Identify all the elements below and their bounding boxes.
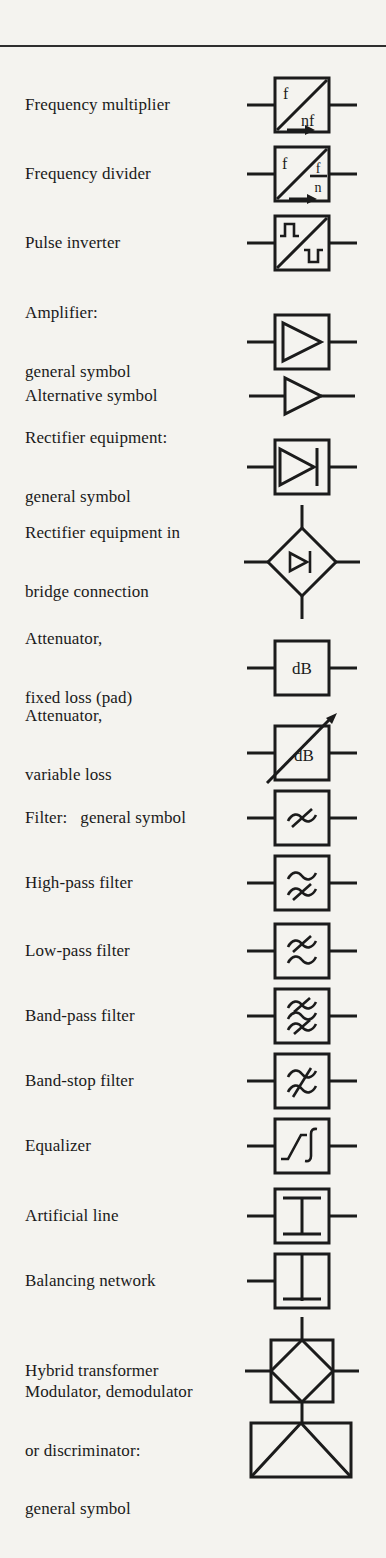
rectifier-general-symbol bbox=[237, 435, 367, 499]
symbol-text-f: f bbox=[283, 85, 289, 102]
label-line: or discriminator: bbox=[25, 1440, 193, 1460]
fraction-numerator: f bbox=[316, 161, 321, 176]
attenuator-fixed-symbol: dB bbox=[237, 636, 367, 700]
label-line: Filter: general symbol bbox=[25, 808, 186, 828]
label-line: Attenuator, bbox=[25, 629, 132, 649]
frequency-multiplier-symbol: f nf bbox=[237, 73, 367, 137]
label-line: Low-pass filter bbox=[25, 941, 130, 961]
label-line: Amplifier: bbox=[25, 303, 131, 323]
pulse-inverter-symbol bbox=[237, 211, 367, 275]
row-modulator-demodulator: Modulator, demodulator or discriminator:… bbox=[0, 1419, 386, 1481]
artificial-line-symbol bbox=[237, 1184, 367, 1248]
band-pass-filter-symbol bbox=[237, 984, 367, 1048]
filter-general-symbol bbox=[237, 786, 367, 850]
label-line: Rectifier equipment: bbox=[25, 428, 167, 448]
fraction-denominator: n bbox=[315, 180, 322, 195]
label-line: Pulse inverter bbox=[25, 233, 120, 253]
rectifier-bridge-symbol bbox=[237, 502, 367, 622]
symbol-text-db: dB bbox=[292, 659, 312, 678]
low-pass-filter-symbol bbox=[237, 919, 367, 983]
label-line: Equalizer bbox=[25, 1136, 91, 1156]
label-line: Artificial line bbox=[25, 1206, 119, 1226]
label-line: Modulator, demodulator bbox=[25, 1382, 193, 1402]
hybrid-transformer-symbol bbox=[237, 1311, 367, 1431]
symbol-text-nf: nf bbox=[301, 112, 315, 129]
balancing-network-symbol bbox=[237, 1249, 367, 1313]
label-line: Balancing network bbox=[25, 1271, 156, 1291]
attenuator-variable-symbol: dB bbox=[237, 705, 367, 785]
high-pass-filter-symbol bbox=[237, 851, 367, 915]
amplifier-alternative-symbol bbox=[237, 371, 367, 421]
frequency-divider-symbol: f f n bbox=[237, 142, 367, 206]
row-balancing-network: Balancing network bbox=[0, 1249, 386, 1313]
label-line: Band-pass filter bbox=[25, 1006, 135, 1026]
header-rule bbox=[0, 45, 386, 47]
label-line: Frequency multiplier bbox=[25, 95, 170, 115]
amplifier-general-symbol bbox=[237, 310, 367, 374]
label-line: High-pass filter bbox=[25, 873, 133, 893]
modulator-demodulator-symbol bbox=[237, 1419, 367, 1481]
symbol-text-db: dB bbox=[294, 746, 314, 765]
label-line: general symbol bbox=[25, 1499, 193, 1519]
label-line: Attenuator, bbox=[25, 706, 112, 726]
equalizer-symbol bbox=[237, 1114, 367, 1178]
scanned-page: Frequency multiplier f nf Frequency divi… bbox=[0, 0, 386, 1558]
label-line: Rectifier equipment in bbox=[25, 523, 180, 543]
symbol-text-f: f bbox=[282, 155, 288, 172]
band-stop-filter-symbol bbox=[237, 1049, 367, 1113]
label-line: Band-stop filter bbox=[25, 1071, 134, 1091]
label-modulator-demodulator: Modulator, demodulator or discriminator:… bbox=[25, 1343, 193, 1558]
label-line: Frequency divider bbox=[25, 164, 151, 184]
